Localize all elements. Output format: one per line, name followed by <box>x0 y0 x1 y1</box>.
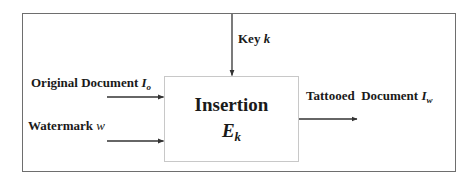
watermark-label-text: Watermark <box>28 118 96 133</box>
key-label: Key k <box>238 32 270 46</box>
insertion-block: Insertion Ek <box>164 76 299 162</box>
original-document-label-text: Original Document <box>31 75 142 90</box>
function-subscript: k <box>235 129 242 144</box>
watermark-symbol: w <box>96 118 105 133</box>
original-document-label: Original Document Io <box>31 76 151 94</box>
key-symbol: k <box>264 31 271 46</box>
tattooed-document-label: Tattooed Document Iw <box>306 89 433 107</box>
function-symbol: E <box>222 120 235 141</box>
watermark-label: Watermark w <box>28 119 105 133</box>
tattooed-document-subscript: w <box>427 95 433 105</box>
insertion-function-label: Ek <box>165 121 298 147</box>
original-document-subscript: o <box>147 82 152 92</box>
insertion-block-title: Insertion <box>165 95 298 115</box>
key-label-text: Key <box>238 31 264 46</box>
tattooed-document-label-text: Tattooed Document <box>306 88 421 103</box>
